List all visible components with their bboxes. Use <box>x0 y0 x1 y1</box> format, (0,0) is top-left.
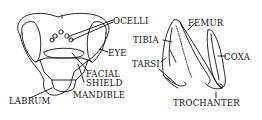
insect-anatomy-diagram: OCELLI EYE FACIAL SHIELD MANDIBLE LABRUM… <box>0 0 262 120</box>
label-trochanter: TROCHANTER <box>173 99 240 108</box>
label-mandible: MANDIBLE <box>73 91 125 100</box>
label-shield: SHIELD <box>86 79 122 88</box>
label-ocelli: OCELLI <box>113 17 149 26</box>
leg-drawing <box>159 20 225 98</box>
label-coxa: COXA <box>224 53 250 62</box>
label-labrum: LABRUM <box>9 97 51 106</box>
label-tarsi: TARSI <box>132 60 160 69</box>
label-tibia: TIBIA <box>133 36 159 45</box>
label-eye: EYE <box>108 49 127 58</box>
label-femur: FEMUR <box>188 19 223 28</box>
